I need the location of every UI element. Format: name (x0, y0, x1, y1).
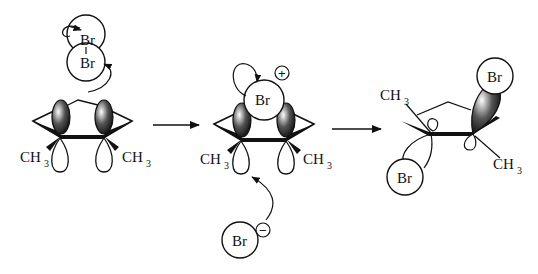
negative-charge-icon: − (259, 223, 267, 238)
p-orbital-icon (95, 100, 113, 134)
br-top-label: Br (80, 32, 95, 48)
svg-text:3: 3 (327, 160, 332, 171)
bromine-molecule: Br Br (63, 15, 111, 92)
methyl-right-label: CH (122, 149, 143, 165)
methyl-left-label: CH (20, 149, 41, 165)
svg-text:3: 3 (224, 160, 229, 171)
methyl-left-label: CH (200, 151, 221, 167)
methyl-right-label: CH (303, 151, 324, 167)
product: Br CH 3 Br CH 3 (380, 58, 522, 195)
br-top-label: Br (487, 69, 502, 85)
bromide-label: Br (232, 233, 247, 249)
p-orbital-icon (52, 100, 70, 134)
svg-text:3: 3 (44, 158, 49, 169)
methyl-bottom-label: CH (493, 156, 514, 172)
svg-text:3: 3 (517, 165, 522, 176)
br-bottom-label: Br (397, 170, 412, 186)
bromonium-intermediate: Br + CH 3 CH 3 Br − (200, 64, 332, 258)
reaction-diagram: Br Br CH 3 CH 3 (0, 0, 538, 274)
br-bottom-label: Br (80, 55, 95, 71)
curved-arrow-icon (252, 177, 273, 220)
svg-text:3: 3 (146, 158, 151, 169)
positive-charge-icon: + (278, 66, 286, 81)
svg-text:3: 3 (404, 96, 409, 107)
bromonium-br-label: Br (255, 92, 270, 108)
methyl-top-label: CH (380, 87, 401, 103)
cis-2-butene: CH 3 CH 3 (20, 100, 151, 172)
reactants: Br Br CH 3 CH 3 (20, 15, 151, 172)
